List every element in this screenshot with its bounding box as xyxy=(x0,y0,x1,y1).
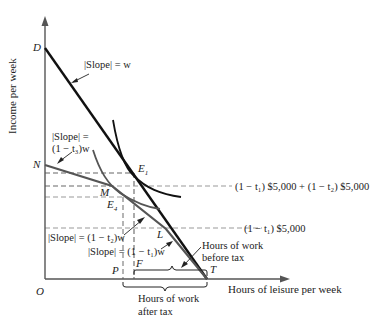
slope-t1-annotation: |Slope| = (1 − t₁)w xyxy=(88,246,165,257)
budget-line-post-tax xyxy=(45,165,207,279)
point-l-label: L xyxy=(157,229,163,241)
x-axis-label: Hours of leisure per week xyxy=(228,284,342,296)
hours-after-tax-label-line2: after tax xyxy=(138,306,173,317)
hours-after-tax-label-line1: Hours of work xyxy=(138,293,199,304)
point-e1-label: E1 xyxy=(138,163,148,178)
slope-t3-annotation-line2: (1 − t₃)w xyxy=(52,143,90,154)
hours-before-tax-label-line1: Hours of work xyxy=(202,240,263,251)
indifference-curve-high xyxy=(113,120,181,197)
arrowhead-slope-w-icon xyxy=(71,78,78,83)
slope-w-annotation: |Slope| = w xyxy=(84,59,131,70)
point-n-label: N xyxy=(33,159,40,171)
point-f-label: F xyxy=(136,258,143,270)
point-d-label: D xyxy=(33,42,41,54)
y-axis-arrow-icon xyxy=(42,16,49,26)
income-level-low-label: (1 − t₁) $5,000 xyxy=(244,223,306,234)
slope-t3-annotation-line1: |Slope| = xyxy=(52,131,89,142)
point-e4-label: E4 xyxy=(107,199,117,214)
hours-before-tax-label-line2: before tax xyxy=(202,252,244,263)
labor-supply-diagram xyxy=(0,0,381,325)
point-p-label: P xyxy=(112,265,119,277)
brace-hours-before-tax xyxy=(134,266,207,276)
arrowhead-slope-t1-icon xyxy=(166,241,173,247)
point-t-label: T xyxy=(210,264,216,276)
indifference-curve-low xyxy=(93,150,160,209)
arrowhead-slope-t3-icon xyxy=(57,157,64,164)
origin-label: O xyxy=(36,286,44,298)
slope-t2-annotation: |Slope| = (1 − t₂)w xyxy=(48,232,125,243)
brace-hours-after-tax xyxy=(123,282,207,291)
income-level-high-label: (1 − t₁) $5,000 + (1 − t₂) $5,000 xyxy=(235,181,369,192)
y-axis-label: Income per week xyxy=(3,22,17,142)
point-m-label: M xyxy=(100,187,109,199)
x-axis-arrow-icon xyxy=(280,276,290,283)
